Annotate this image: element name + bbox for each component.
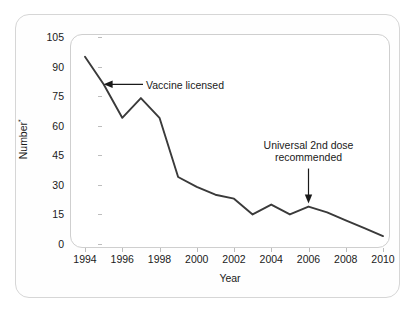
x-axis-tick-mark (346, 248, 347, 252)
y-axis-title-footnote-marker: * (17, 119, 24, 122)
x-axis-tick-mark (160, 248, 161, 252)
annotation-universal-2nd-dose: Universal 2nd doserecommended (254, 139, 364, 163)
x-axis-tick-label: 2006 (289, 254, 329, 265)
x-axis-title: Year (150, 272, 310, 284)
y-axis-title-text: Number (17, 122, 29, 159)
x-axis-tick-mark (85, 248, 86, 252)
x-axis-tick-label: 2000 (177, 254, 217, 265)
x-axis-tick-label: 2010 (363, 254, 403, 265)
x-axis-tick-label: 1994 (65, 254, 105, 265)
x-axis-tick-mark (383, 248, 384, 252)
x-axis-tick-label: 1998 (140, 254, 180, 265)
x-axis-tick-mark (271, 248, 272, 252)
chart-figure: 0153045607590105 19941996199820002002200… (0, 0, 418, 317)
x-axis-tick-label: 2002 (214, 254, 254, 265)
x-axis-tick-label: 2008 (326, 254, 366, 265)
x-axis-tick-label: 2004 (251, 254, 291, 265)
x-axis-tick-mark (197, 248, 198, 252)
annotation-vaccine-licensed: Vaccine licensed (146, 79, 224, 91)
annotation-universal-2nd-dose-line1: Universal 2nd dose (264, 139, 354, 151)
y-axis-title: Number* (17, 104, 30, 174)
x-axis-tick-mark (234, 248, 235, 252)
x-axis-tick-mark (309, 248, 310, 252)
x-axis-tick-label: 1996 (102, 254, 142, 265)
annotation-universal-2nd-dose-line2: recommended (275, 151, 342, 163)
x-axis-tick-mark (122, 248, 123, 252)
